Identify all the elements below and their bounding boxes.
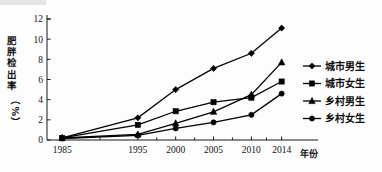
data-point-diamond (210, 65, 216, 71)
data-point-circle (249, 112, 254, 117)
data-point-square (279, 79, 284, 84)
series-diamond (59, 25, 285, 141)
x-tick-label: 2005 (204, 145, 223, 155)
chart-figure: 肥胖检出率（%） 024681012 198519952000200520102… (0, 0, 382, 172)
legend-item-square[interactable]: 城市女生 (303, 77, 365, 89)
legend-item-circle[interactable]: 乡村女生 (303, 112, 365, 124)
y-axis-title-char: % (10, 106, 21, 116)
y-axis-title-char: （ (10, 95, 21, 105)
x-axis-ticks: 198519952000200520102014 (53, 137, 292, 156)
y-axis-ticks: 024681012 (34, 14, 51, 145)
x-tick-label: 2014 (272, 145, 291, 155)
y-tick-label: 8 (38, 55, 43, 65)
y-axis-title-char: ） (10, 117, 21, 127)
data-point-circle (173, 126, 178, 131)
y-axis-title-char: 检 (7, 57, 17, 68)
obesity-rate-line-chart: 肥胖检出率（%） 024681012 198519952000200520102… (0, 0, 382, 172)
data-point-triangle (278, 59, 284, 65)
data-point-circle (135, 133, 140, 138)
data-point-diamond (309, 63, 315, 69)
x-axis-title: 年份 (300, 148, 319, 159)
data-point-square (135, 122, 140, 127)
y-tick-label: 0 (38, 135, 43, 145)
data-point-circle (60, 136, 65, 141)
legend-item-label: 城市男生 (325, 60, 365, 72)
y-tick-label: 6 (38, 75, 43, 85)
legend-item-label: 城市女生 (325, 77, 365, 89)
data-point-square (173, 109, 178, 114)
y-tick-label: 12 (34, 14, 44, 24)
y-axis-title: 肥胖检出率（%） (6, 35, 21, 127)
data-series-group (59, 25, 285, 141)
data-point-circle (279, 91, 284, 96)
y-tick-label: 10 (34, 35, 44, 45)
legend-item-triangle[interactable]: 乡村男生 (303, 95, 365, 107)
y-axis-title-char: 胖 (6, 46, 17, 57)
x-tick-label: 2010 (242, 145, 261, 155)
y-tick-label: 4 (38, 95, 43, 105)
y-axis-title-char: 出 (7, 69, 17, 80)
chart-legend: 城市男生城市女生乡村男生乡村女生 (303, 60, 365, 125)
legend-item-diamond[interactable]: 城市男生 (303, 60, 365, 72)
y-axis-title-char: 肥 (7, 35, 17, 46)
series-square (60, 79, 285, 141)
data-point-square (211, 100, 216, 105)
y-axis-title-char: 率 (7, 80, 17, 91)
data-point-circle (211, 120, 216, 125)
data-point-circle (309, 116, 314, 121)
data-point-square (309, 81, 314, 86)
legend-item-label: 乡村男生 (325, 95, 365, 107)
x-tick-label: 1985 (53, 145, 72, 155)
x-tick-label: 1995 (128, 145, 147, 155)
x-tick-label: 2000 (166, 145, 185, 155)
legend-item-label: 乡村女生 (325, 112, 365, 124)
y-tick-label: 2 (38, 115, 43, 125)
